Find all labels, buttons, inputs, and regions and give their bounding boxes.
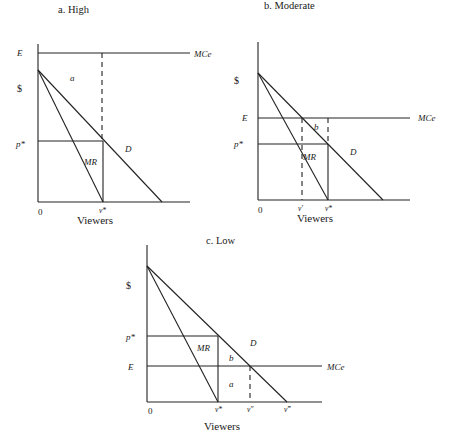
panel-a-label-mce: MCe <box>193 49 212 59</box>
panel-c-x-label: Viewers <box>204 420 240 432</box>
panel-c-label-mce: MCe <box>326 362 345 372</box>
economics-diagram: a. High E $ p* MCe a MR D 0 v* Viewers b… <box>0 0 449 445</box>
panel-b-label-E: E <box>241 113 248 123</box>
panel-c-label-vdoubleprime: v″ <box>247 405 254 414</box>
panel-c-demand-curve <box>147 266 287 402</box>
panel-a-demand-curve <box>38 70 162 202</box>
panel-a-label-mr: MR <box>83 157 97 167</box>
panel-b-dollar-symbol: $ <box>234 75 239 86</box>
panel-c-label-mr: MR <box>196 343 210 353</box>
panel-c-dollar-symbol: $ <box>126 280 131 291</box>
panel-a-dollar-symbol: $ <box>17 83 22 94</box>
panel-a-origin: 0 <box>38 207 43 217</box>
panel-c-label-vtripleprime: v‴ <box>284 405 291 414</box>
panel-c-label-area-a: a <box>229 379 234 389</box>
panel-c-origin: 0 <box>148 406 153 416</box>
panel-b-label-d: D <box>349 147 357 157</box>
panel-a-title: a. High <box>58 4 90 15</box>
panel-b-title: b. Moderate <box>264 0 315 11</box>
panel-c-low: c. Low $ p* E MCe MR D b a 0 v* v″ v‴ Vi… <box>125 235 345 432</box>
panel-b-label-mr: MR <box>302 152 316 162</box>
panel-a-mr-curve <box>38 70 103 202</box>
panel-c-mr-curve <box>147 266 218 402</box>
panel-b-origin: 0 <box>258 205 263 215</box>
panel-b-demand-curve <box>258 73 383 200</box>
panel-b-mr-curve <box>258 73 328 200</box>
panel-c-label-pstar: p* <box>125 332 136 342</box>
panel-a-high: a. High E $ p* MCe a MR D 0 v* Viewers <box>15 4 212 226</box>
panel-a-label-area-a: a <box>70 73 75 83</box>
panel-b-x-label: Viewers <box>297 212 333 224</box>
panel-a-label-pstar: p* <box>15 139 26 149</box>
panel-b-label-pstar: p* <box>233 139 244 149</box>
panel-c-label-area-b: b <box>229 353 234 363</box>
panel-c-label-d: D <box>249 338 257 348</box>
panel-a-label-E: E <box>16 48 23 58</box>
panel-c-label-vstar: v* <box>215 405 222 414</box>
panel-b-moderate: b. Moderate $ E p* MCe b MR D 0 v′ v* Vi… <box>233 0 436 224</box>
panel-b-label-mce: MCe <box>417 113 436 123</box>
panel-b-label-area-b: b <box>314 122 319 132</box>
panel-a-label-d: D <box>124 144 132 154</box>
panel-c-label-E: E <box>127 362 134 372</box>
panel-a-x-label: Viewers <box>77 214 113 226</box>
panel-c-title: c. Low <box>206 235 236 246</box>
